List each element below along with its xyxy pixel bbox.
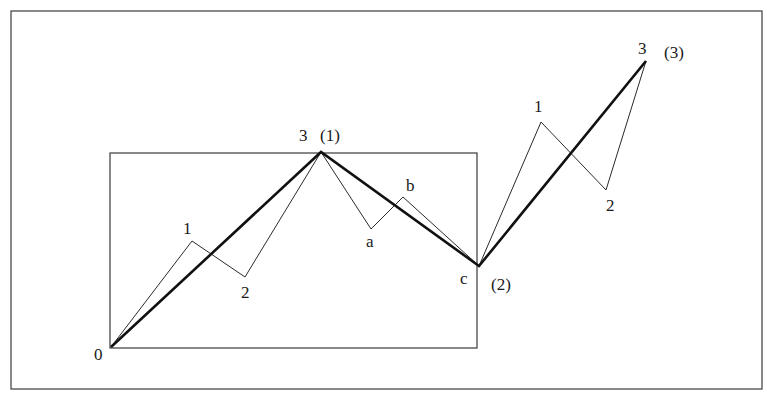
inner-box xyxy=(110,153,477,348)
label-major2-degree: (2) xyxy=(491,275,511,294)
major-wave-path xyxy=(111,61,646,347)
label-corr-a: a xyxy=(366,232,374,251)
elliott-wave-diagram: 0 1 2 3 (1) a b c (2) 1 2 3 (3) xyxy=(0,0,767,396)
label-sub3-wave2: 2 xyxy=(606,196,615,215)
label-sub1-wave2: 2 xyxy=(241,283,250,302)
label-sub1-wave1: 1 xyxy=(183,219,192,238)
label-major3-degree: (3) xyxy=(664,43,684,62)
label-major2-wave: c xyxy=(460,269,468,288)
label-corr-b: b xyxy=(406,176,415,195)
label-origin: 0 xyxy=(94,345,103,364)
label-major1-degree: (1) xyxy=(320,126,340,145)
label-major1-wave: 3 xyxy=(299,126,308,145)
label-sub3-wave1: 1 xyxy=(534,97,543,116)
label-major3-wave: 3 xyxy=(638,39,647,58)
